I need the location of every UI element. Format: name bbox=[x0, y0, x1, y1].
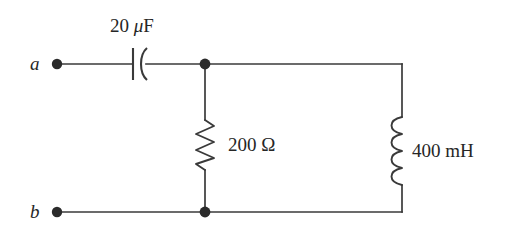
capacitor-value-label: 20 μF bbox=[110, 16, 154, 35]
inductor-icon bbox=[392, 117, 403, 185]
inductor-value-label: 400 mH bbox=[412, 141, 474, 160]
resistor-icon bbox=[196, 120, 214, 170]
terminal-dot-a bbox=[52, 59, 62, 69]
capacitor-icon bbox=[133, 48, 147, 80]
capacitor-unit: F bbox=[143, 15, 154, 36]
terminal-label-a: a bbox=[30, 54, 40, 73]
junction-dot-bottom bbox=[200, 207, 211, 218]
capacitor-unit-prefix: μ bbox=[134, 15, 144, 36]
circuit-diagram-canvas: a b 20 μF 200 Ω 400 mH bbox=[0, 0, 507, 239]
capacitor-value-number: 20 bbox=[110, 15, 129, 36]
junction-dot-top bbox=[200, 59, 211, 70]
circuit-schematic bbox=[0, 0, 507, 239]
terminal-dot-b bbox=[52, 207, 62, 217]
resistor-value-label: 200 Ω bbox=[228, 135, 275, 154]
terminal-label-b: b bbox=[30, 202, 40, 221]
